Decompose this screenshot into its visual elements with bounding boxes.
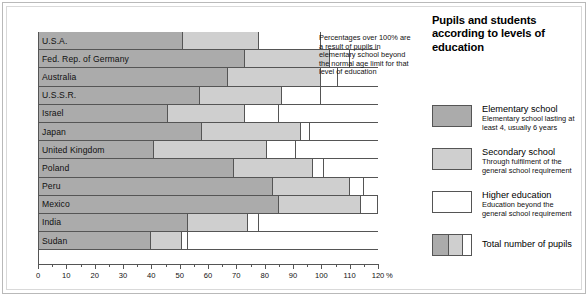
bar-row: Japan: [38, 123, 378, 141]
legend-text: Elementary schoolElementary school lasti…: [482, 104, 578, 132]
axis-tick-label: 30: [119, 271, 127, 280]
x-axis: 0102030405060708090100110120%: [38, 264, 378, 290]
legend-description: Elementary school lasting at least 4, us…: [482, 115, 578, 132]
axis-tick-label: 50: [175, 271, 183, 280]
bar-segment-secondary-school: [200, 87, 282, 104]
axis-tick-label: 60: [204, 271, 212, 280]
axis-tick-label: 20: [90, 271, 98, 280]
bar-segment-secondary-school: [154, 141, 267, 158]
bar-segment-higher-education: [245, 105, 279, 122]
axis-tick-label: 100: [315, 271, 328, 280]
axis-tick-label: 80: [260, 271, 268, 280]
legend-item: Elementary schoolElementary school lasti…: [432, 104, 578, 138]
axis-tick-minor: [222, 264, 223, 267]
legend-swatch-part: [463, 235, 471, 255]
bar-row-label: Israel: [42, 108, 64, 118]
axis-tick-major: [180, 264, 181, 269]
bar-row-label: Peru: [42, 181, 61, 191]
axis-tick-minor: [109, 264, 110, 267]
bar-row: Peru: [38, 178, 378, 196]
legend: Elementary schoolElementary school lasti…: [432, 104, 578, 276]
axis-tick-major: [236, 264, 237, 269]
legend-item: Secondary schoolThrough fulfilment of th…: [432, 147, 578, 181]
bar-segment-secondary-school: [228, 68, 322, 85]
legend-swatch-high: [432, 191, 472, 213]
bar-segment-higher-education: [282, 87, 322, 104]
legend-swatch-part: [433, 235, 449, 255]
legend-description: Through fulfilment of the general school…: [482, 158, 578, 175]
side-panel: Pupils and students according to levels …: [432, 14, 578, 280]
panel-divider: [422, 10, 423, 286]
bar-segment-higher-education: [248, 214, 259, 231]
bar-row-label: Japan: [42, 127, 66, 137]
axis-tick-major: [66, 264, 67, 269]
axis-unit-label: %: [386, 271, 393, 280]
axis-tick-minor: [336, 264, 337, 267]
bar-row-label: Poland: [42, 163, 69, 173]
legend-item: Higher educationEducation beyond the gen…: [432, 190, 578, 224]
bar-row: India: [38, 214, 378, 232]
legend-text: Higher educationEducation beyond the gen…: [482, 190, 578, 218]
bar-row-label: India: [42, 217, 61, 227]
axis-tick-minor: [251, 264, 252, 267]
axis-tick-label: 120: [372, 271, 385, 280]
bar-row-label: Fed. Rep. of Germany: [42, 54, 129, 64]
bar-row: U.S.S.R.: [38, 87, 378, 105]
bar-segment-secondary-school: [188, 214, 248, 231]
bar-row-label: Australia: [42, 72, 76, 82]
chart-annotation: Percentages over 100% are a result of pu…: [319, 34, 415, 77]
bar-segment-elementary-school: [38, 196, 279, 213]
bar-segment-secondary-school: [245, 50, 330, 67]
chart-area: U.S.A.Fed. Rep. of GermanyAustraliaU.S.S…: [12, 12, 414, 284]
axis-tick-major: [321, 264, 322, 269]
axis-tick-major: [151, 264, 152, 269]
axis-tick-major: [95, 264, 96, 269]
bar-segment-higher-education: [268, 141, 296, 158]
bar-segment-secondary-school: [168, 105, 245, 122]
bar-row: Mexico: [38, 196, 378, 214]
bar-segment-elementary-school: [38, 178, 273, 195]
bar-segment-secondary-school: [183, 32, 260, 49]
axis-tick-minor: [307, 264, 308, 267]
axis-tick-minor: [137, 264, 138, 267]
axis-tick-minor: [364, 264, 365, 267]
bar-row: Israel: [38, 105, 378, 123]
bar-segment-secondary-school: [234, 159, 313, 176]
bar-row-label: United Kingdom: [42, 145, 105, 155]
axis-tick-major: [293, 264, 294, 269]
axis-tick-minor: [81, 264, 82, 267]
axis-tick-label: 110: [344, 271, 356, 280]
axis-tick-major: [38, 264, 39, 269]
bar-segment-higher-education: [313, 159, 324, 176]
bar-segment-secondary-school: [279, 196, 361, 213]
bar-row-label: U.S.A.: [42, 36, 67, 46]
bar-row: Sudan: [38, 232, 378, 250]
bar-segment-higher-education: [183, 232, 189, 249]
axis-tick-minor: [279, 264, 280, 267]
bar-segment-secondary-school: [151, 232, 182, 249]
legend-text: Secondary schoolThrough fulfilment of th…: [482, 147, 578, 175]
figure-chart: U.S.A.Fed. Rep. of GermanyAustraliaU.S.S…: [0, 0, 588, 297]
bar-row-label: Sudan: [42, 236, 67, 246]
axis-tick-label: 0: [36, 271, 40, 280]
bar-row: United Kingdom: [38, 141, 378, 159]
legend-swatch-total: [432, 234, 472, 256]
axis-tick-major: [208, 264, 209, 269]
axis-tick-minor: [194, 264, 195, 267]
legend-text: Total number of pupils: [482, 233, 578, 244]
bar-segment-higher-education: [350, 178, 364, 195]
legend-title: Total number of pupils: [482, 239, 578, 250]
legend-swatch-sec: [432, 148, 472, 170]
axis-tick-minor: [166, 264, 167, 267]
bar-row: Poland: [38, 159, 378, 177]
axis-tick-label: 90: [289, 271, 297, 280]
axis-tick-label: 70: [232, 271, 240, 280]
plot-left-axis: [38, 32, 39, 264]
axis-tick-major: [378, 264, 379, 269]
axis-tick-label: 10: [62, 271, 70, 280]
axis-tick-major: [350, 264, 351, 269]
legend-swatch-part: [449, 235, 463, 255]
legend-description: Education beyond the general school requ…: [482, 201, 578, 218]
bar-segment-secondary-school: [202, 123, 301, 140]
axis-tick-major: [265, 264, 266, 269]
